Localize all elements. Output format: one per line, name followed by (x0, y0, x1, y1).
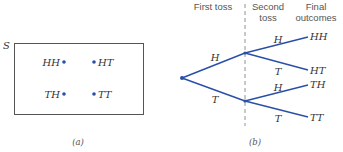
branch-label-second-t1: T (275, 66, 283, 77)
branch-label-second-h1: H (273, 34, 283, 45)
outcome-dot-hh (62, 60, 66, 64)
branch-label-second-t2: T (275, 113, 283, 124)
panel-b-tree-diagram: First toss Second toss Final outcomes H … (180, 1, 337, 147)
outcome-label-tt: TT (98, 89, 113, 100)
coin-toss-diagram: S HH HT TH TT (a) First toss Second toss… (0, 0, 343, 152)
header-first-toss: First toss (194, 1, 233, 12)
header-second-toss-line2: toss (259, 12, 277, 23)
final-outcome-th: TH (310, 79, 326, 90)
caption-a: (a) (72, 137, 84, 147)
panel-a-sample-space: S HH HT TH TT (a) (3, 40, 144, 147)
branch-label-first-h: H (210, 52, 220, 63)
header-final-line1: Final (306, 1, 327, 12)
sample-space-box (15, 44, 144, 115)
branch-label-second-h2: H (273, 82, 283, 93)
caption-b: (b) (249, 137, 261, 147)
root-node (180, 76, 184, 80)
outcome-label-ht: HT (97, 57, 115, 68)
outcome-dot-ht (92, 60, 96, 64)
final-outcome-tt: TT (310, 112, 325, 123)
outcome-dot-tt (92, 92, 96, 96)
outcome-dot-th (62, 92, 66, 96)
header-final-line2: outcomes (295, 12, 336, 23)
final-outcome-hh: HH (309, 31, 328, 42)
set-label-s: S (3, 40, 10, 51)
branch-label-first-t: T (212, 94, 220, 105)
outcome-label-th: TH (45, 89, 61, 100)
final-outcome-ht: HT (309, 65, 327, 76)
outcome-label-hh: HH (42, 57, 61, 68)
header-second-toss-line1: Second (252, 1, 284, 12)
node-after-t (243, 99, 246, 102)
node-after-h (243, 51, 246, 54)
